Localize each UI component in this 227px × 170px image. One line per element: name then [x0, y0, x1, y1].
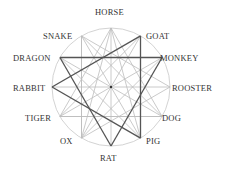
trine-line-dog-horse — [111, 28, 162, 117]
sign-label-rat: RAT — [100, 154, 117, 163]
sign-label-monkey: MONKEY — [160, 54, 199, 63]
dark-trine-lines — [52, 36, 162, 146]
sign-label-rabbit: RABBIT — [13, 84, 45, 93]
chord-line-snake-dog — [82, 36, 163, 117]
sign-label-horse: HORSE — [95, 8, 124, 17]
sign-label-snake: SNAKE — [43, 32, 72, 41]
trine-line-goat-rabbit — [52, 36, 141, 87]
trine-line-snake-rooster — [82, 36, 171, 87]
trine-line-rabbit-pig — [52, 87, 141, 138]
sign-label-tiger: TIGER — [25, 114, 51, 123]
sign-label-goat: GOAT — [146, 32, 169, 41]
trine-line-rat-dragon — [60, 58, 111, 147]
trine-line-rooster-ox — [82, 87, 171, 138]
center-dot — [110, 86, 112, 88]
sign-label-dog: DOG — [162, 114, 181, 123]
sign-label-rooster: ROOSTER — [172, 84, 212, 93]
trine-line-horse-tiger — [60, 28, 111, 117]
sign-label-pig: PIG — [146, 137, 160, 146]
trine-line-monkey-rat — [111, 58, 162, 147]
sign-label-ox: OX — [60, 137, 73, 146]
sign-label-dragon: DRAGON — [13, 54, 51, 63]
